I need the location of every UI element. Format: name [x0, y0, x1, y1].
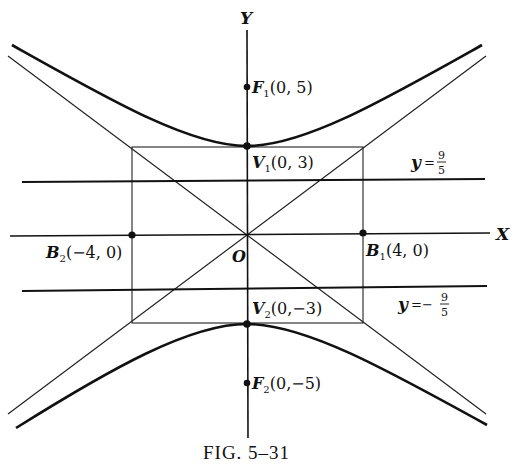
- hyperbola-figure: Y X O F1(0, 5) V1(0, 3) V2(0,−3) F2(0,−5…: [0, 0, 523, 465]
- label-b1: B1(4, 0): [365, 241, 429, 262]
- endpoint-b1-point: [359, 229, 366, 236]
- y-axis: [247, 30, 248, 438]
- label-b2-coords: (−4, 0): [66, 243, 122, 262]
- directrix-upper-label: y = 9 5: [410, 149, 446, 177]
- figure-caption: FIG. 5–31: [203, 442, 290, 463]
- label-b1-name: B: [365, 241, 380, 260]
- directrix-lower-numerator: 9: [441, 291, 448, 304]
- directrix-lower-lhs: y: [397, 294, 409, 314]
- directrix-upper-numerator: 9: [438, 149, 445, 162]
- x-axis-label: X: [495, 224, 510, 244]
- label-f2-coords: (0,−5): [270, 374, 321, 393]
- endpoint-b2-point: [128, 231, 135, 238]
- label-f1: F1(0, 5): [251, 78, 313, 99]
- label-f2: F2(0,−5): [251, 374, 321, 395]
- label-b2: B2(−4, 0): [45, 243, 122, 264]
- label-v1: V1(0, 3): [252, 153, 314, 174]
- label-b1-coords: (4, 0): [386, 241, 429, 260]
- label-b2-name: B: [45, 243, 60, 262]
- directrix-upper-lhs: y: [410, 152, 422, 172]
- focus-f2-point: [244, 380, 251, 387]
- origin-label: O: [232, 247, 246, 266]
- directrix-upper-denominator: 5: [438, 164, 445, 177]
- vertex-v1-point: [243, 142, 251, 150]
- directrix-lower-denominator: 5: [441, 306, 448, 319]
- vertex-v2-point: [243, 320, 251, 328]
- directrix-upper: [22, 179, 485, 182]
- label-v2-coords: (0,−3): [271, 299, 322, 318]
- directrix-lower-sign: −: [422, 297, 433, 312]
- label-v2: V2(0,−3): [252, 299, 322, 320]
- label-v1-coords: (0, 3): [271, 153, 314, 172]
- directrix-upper-eq: =: [424, 155, 435, 170]
- directrix-lower-eq: =: [411, 297, 422, 312]
- label-f1-coords: (0, 5): [270, 78, 313, 97]
- focus-f1-point: [244, 84, 251, 91]
- directrix-lower: [22, 286, 487, 291]
- directrix-lower-label: y = − 9 5: [397, 291, 449, 319]
- y-axis-label: Y: [240, 8, 254, 28]
